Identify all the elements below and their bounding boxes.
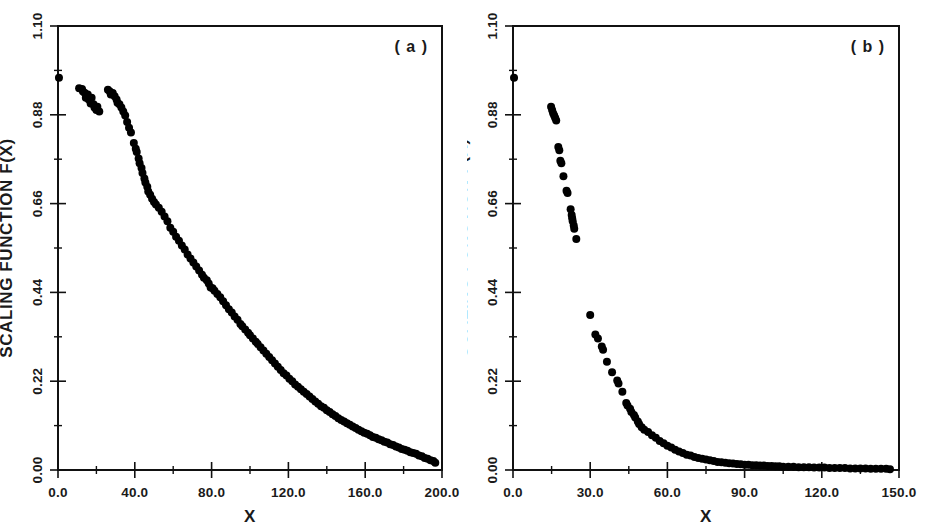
data-point <box>886 465 894 473</box>
data-point <box>615 380 623 388</box>
scatter-plot-b: 0.030.060.090.0120.0150.00.000.220.440.6… <box>467 0 935 529</box>
x-tick-label: 150.0 <box>882 485 917 500</box>
data-point <box>608 368 616 376</box>
data-point <box>431 459 439 467</box>
data-point <box>603 358 611 366</box>
y-tick-label: 0.88 <box>485 101 500 128</box>
data-series <box>510 74 580 243</box>
data-point <box>599 346 607 354</box>
chart-panel-a: 0.040.080.0120.0160.0200.00.000.220.440.… <box>0 0 467 529</box>
x-tick-label: 90.0 <box>731 485 758 500</box>
x-tick-label: 120.0 <box>804 485 839 500</box>
x-tick-label: 120.0 <box>271 485 306 500</box>
data-point <box>570 225 578 233</box>
x-axis-title: X <box>700 507 712 526</box>
data-point <box>594 334 602 342</box>
data-series <box>55 74 439 467</box>
data-point <box>557 159 565 167</box>
data-point <box>618 388 626 396</box>
scatter-plot-a: 0.040.080.0120.0160.0200.00.000.220.440.… <box>0 0 467 529</box>
y-tick-label: 0.44 <box>485 279 500 306</box>
data-point <box>510 74 518 82</box>
y-tick-label: 0.66 <box>30 190 45 217</box>
y-tick-label: 0.00 <box>30 456 45 483</box>
panel-tag: ( a ) <box>395 38 428 55</box>
panel-tag: ( b ) <box>851 38 885 55</box>
data-point <box>552 116 560 124</box>
y-axis-title: SCALING FUNCTION F(X) <box>467 138 471 357</box>
figure-container: 0.040.080.0120.0160.0200.00.000.220.440.… <box>0 0 935 529</box>
y-tick-label: 1.10 <box>30 12 45 39</box>
y-tick-label: 0.66 <box>485 190 500 217</box>
data-point <box>95 108 103 116</box>
y-tick-label: 0.44 <box>30 279 45 306</box>
x-tick-label: 160.0 <box>348 485 383 500</box>
plot-frame <box>513 26 899 470</box>
data-point <box>572 235 580 243</box>
y-tick-label: 1.10 <box>485 12 500 39</box>
y-tick-label: 0.00 <box>485 456 500 483</box>
chart-panel-b: 0.030.060.090.0120.0150.00.000.220.440.6… <box>467 0 934 529</box>
x-tick-label: 200.0 <box>425 485 460 500</box>
data-point <box>555 146 563 154</box>
x-tick-label: 0.0 <box>503 485 522 500</box>
x-tick-label: 40.0 <box>121 485 148 500</box>
data-point <box>55 74 63 82</box>
data-point <box>559 172 567 180</box>
y-tick-label: 0.22 <box>30 368 45 395</box>
data-point <box>564 189 572 197</box>
x-axis-title: X <box>244 507 256 526</box>
x-tick-label: 80.0 <box>198 485 225 500</box>
x-tick-label: 0.0 <box>48 485 67 500</box>
y-tick-label: 0.22 <box>485 368 500 395</box>
x-tick-label: 30.0 <box>577 485 604 500</box>
x-tick-label: 60.0 <box>654 485 681 500</box>
data-series <box>586 311 894 473</box>
data-point <box>586 311 594 319</box>
data-point <box>127 129 135 137</box>
y-tick-label: 0.88 <box>30 101 45 128</box>
y-axis-title: SCALING FUNCTION F(X) <box>0 138 16 357</box>
